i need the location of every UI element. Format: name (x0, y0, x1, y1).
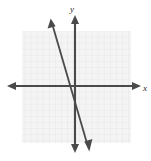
graph-figure: x y (0, 0, 151, 161)
x-axis-left-arrowhead (7, 82, 16, 90)
y-axis-bottom-arrowhead (71, 144, 79, 153)
x-axis-right-arrowhead (132, 82, 141, 90)
coordinate-plane: x y (0, 0, 151, 161)
y-axis-top-arrowhead (71, 15, 79, 24)
line-upper-arrowhead (48, 19, 56, 29)
y-axis-label: y (69, 4, 74, 14)
x-axis-label: x (142, 83, 147, 93)
